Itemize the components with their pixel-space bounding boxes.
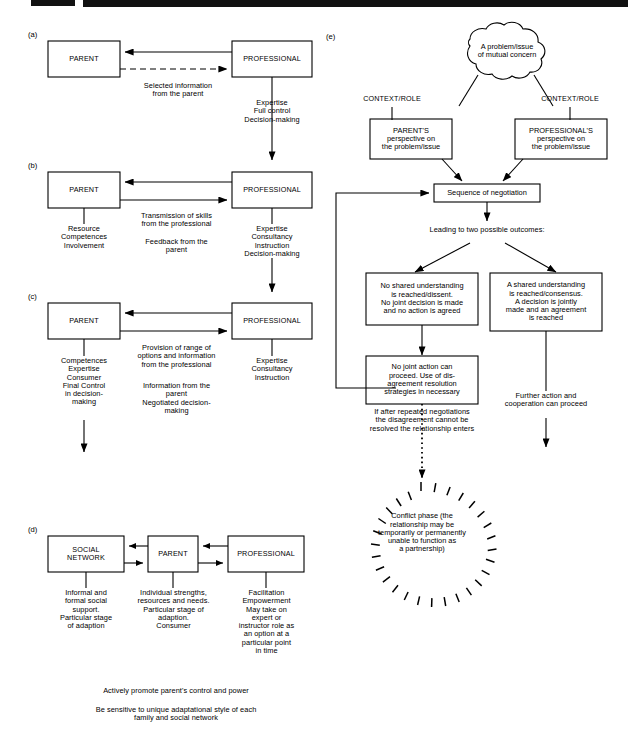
d-social-network-attributes-text: Informal and formal social support. Part… bbox=[36, 589, 136, 630]
c-professional-label: PROFESSIONAL bbox=[232, 303, 312, 339]
c-parent-label: PARENT bbox=[48, 303, 120, 339]
e-further-action-text: Further action and cooperation can proce… bbox=[486, 392, 606, 409]
panel-letter-a: (a) bbox=[28, 30, 37, 39]
e-context-role-left-text: CONTEXT/ROLE bbox=[352, 95, 432, 103]
b-professional-attributes-text: Expertise Consultancy Instruction Decisi… bbox=[222, 225, 322, 258]
e-shared-understanding-label: A shared understanding is reached/consen… bbox=[490, 273, 602, 331]
e-problem-cloud-label: A problem/issue of mutual concern bbox=[464, 35, 550, 67]
e-professional-perspective-label: PROFESSIONAL'S perspective on the proble… bbox=[515, 119, 607, 159]
c-professional-attributes-text: Expertise Consultancy Instruction bbox=[222, 357, 322, 382]
d-footer-line-2: Be sensitive to unique adaptational styl… bbox=[40, 706, 312, 723]
e-context-role-right-text: CONTEXT/ROLE bbox=[530, 95, 610, 103]
panel-letter-c: (c) bbox=[28, 292, 37, 301]
d-footer-line-1: Actively promote parent's control and po… bbox=[48, 687, 304, 695]
d-parent-label: PARENT bbox=[148, 536, 198, 572]
a-professional-attributes-text: Expertise Full control Decision-making bbox=[222, 99, 322, 124]
e-split-right bbox=[505, 243, 556, 272]
e-conflict-phase-label: Conflict phase (the relationship may be … bbox=[366, 505, 478, 561]
e-parent-perspective-label: PARENT'S perspective on the problem/issu… bbox=[370, 119, 452, 159]
b-transmission-text: Transmission of skills from the professi… bbox=[114, 212, 239, 229]
panel-letter-d: (d) bbox=[28, 525, 37, 534]
b-parent-label: PARENT bbox=[48, 172, 120, 208]
panel-letter-b: (b) bbox=[28, 161, 37, 170]
b-feedback-text: Feedback from the parent bbox=[114, 238, 239, 255]
panel-letter-e: (e) bbox=[326, 32, 335, 41]
e-sequence-of-negotiation-label: Sequence of negotiation bbox=[434, 184, 540, 202]
d-social-network-label: SOCIAL NETWORK bbox=[48, 536, 124, 572]
figure-canvas: (a) PARENT PROFESSIONAL Selected informa… bbox=[0, 0, 628, 736]
e-repeated-negotiations-text: If after repeated negotiations the disag… bbox=[352, 408, 492, 433]
e-professional-to-sequence bbox=[503, 159, 523, 181]
c-provision-text: Provision of range of options and inform… bbox=[114, 344, 239, 369]
e-two-outcomes-text: Leading to two possible outcomes: bbox=[400, 226, 574, 234]
e-parent-to-sequence bbox=[442, 159, 462, 181]
e-cloud-to-parent-line bbox=[459, 75, 478, 106]
a-parent-label: PARENT bbox=[48, 41, 120, 77]
c-information-from-parent-text: Information from the parent Negotiated d… bbox=[114, 382, 239, 415]
b-professional-label: PROFESSIONAL bbox=[232, 172, 312, 208]
e-no-joint-action-label: No joint action can proceed. Use of dis-… bbox=[366, 356, 478, 404]
e-no-shared-understanding-label: No shared understanding is reached/disse… bbox=[366, 273, 478, 325]
d-professional-label: PROFESSIONAL bbox=[228, 536, 304, 572]
d-professional-attributes-text: Facilitation Empowerment May take on exp… bbox=[222, 589, 311, 655]
d-parent-attributes-text: Individual strengths, resources and need… bbox=[127, 589, 220, 630]
e-split-left bbox=[415, 243, 470, 272]
a-selected-information-text: Selected information from the parent bbox=[118, 82, 238, 99]
a-professional-label: PROFESSIONAL bbox=[232, 41, 312, 77]
